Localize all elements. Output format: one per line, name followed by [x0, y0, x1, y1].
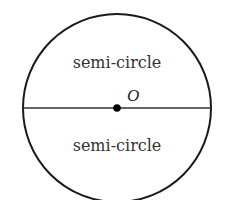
- lower-semicircle-label: semi-circle: [73, 136, 162, 155]
- semicircle-diagram: O semi-circle semi-circle: [0, 0, 228, 200]
- center-point-dot: [113, 104, 121, 112]
- center-point-label: O: [127, 86, 139, 105]
- upper-semicircle-label: semi-circle: [73, 53, 162, 72]
